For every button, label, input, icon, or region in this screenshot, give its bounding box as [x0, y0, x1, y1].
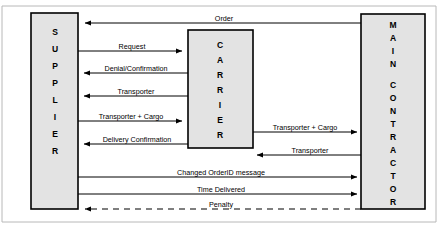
- actor-main-contractor-letter-5: C: [390, 80, 396, 90]
- message-arrow-transporter-to-carrier: Transporter: [257, 146, 361, 156]
- message-label-transporter-cargo-to-carrier: Transporter + Cargo: [99, 112, 164, 121]
- message-arrow-transporter-cargo-to-main: Transporter + Cargo: [253, 123, 357, 133]
- actor-supplier-letter-1: U: [52, 44, 58, 54]
- message-label-denial-confirmation: Denial/Confirmation: [104, 64, 167, 73]
- message-label-time-delivered: Time Delivered: [197, 185, 245, 194]
- actor-main-contractor-letter-14: R: [390, 197, 396, 207]
- actor-main-contractor-letter-3: N: [390, 59, 396, 69]
- message-arrow-time-delivered: Time Delivered: [78, 185, 357, 195]
- message-label-changed-orderid: Changed OrderID message: [177, 168, 265, 177]
- message-label-penalty: Penalty: [209, 200, 233, 209]
- actor-main-contractor-letter-11: C: [390, 158, 396, 168]
- message-arrow-transporter-to-supplier: Transporter: [84, 87, 188, 97]
- actor-main-contractor-letter-13: O: [390, 184, 397, 194]
- actor-supplier-letter-2: P: [52, 61, 58, 71]
- message-label-delivery-confirmation: Delivery Confirmation: [103, 135, 172, 144]
- actor-carrier-letter-4: I: [219, 100, 221, 110]
- message-arrow-changed-orderid: Changed OrderID message: [78, 168, 357, 178]
- message-arrow-penalty: Penalty: [85, 200, 361, 210]
- actor-carrier-letter-5: E: [217, 115, 223, 125]
- actor-carrier-letter-6: R: [217, 130, 223, 140]
- actor-carrier-letter-1: A: [217, 55, 223, 65]
- message-arrow-request: Request: [78, 42, 182, 52]
- actor-supplier-letter-5: I: [54, 112, 56, 122]
- actor-main-contractor-letter-0: M: [389, 20, 396, 30]
- actor-main-contractor-letter-9: R: [390, 132, 396, 142]
- message-arrow-transporter-cargo-to-carrier: Transporter + Cargo: [78, 112, 182, 122]
- flow-diagram: Order Request Denial/Confirmation Transp…: [0, 0, 438, 231]
- actor-carrier-letter-0: C: [217, 40, 223, 50]
- message-label-request: Request: [119, 42, 146, 51]
- actor-carrier-letter-2: R: [217, 70, 223, 80]
- message-label-transporter-cargo-to-main: Transporter + Cargo: [273, 123, 338, 132]
- actor-supplier[interactable]: S U P P L I E R: [31, 13, 78, 209]
- message-label-order: Order: [215, 14, 234, 23]
- message-label-transporter-to-carrier: Transporter: [292, 146, 329, 155]
- actor-supplier-letter-0: S: [52, 27, 58, 37]
- actor-carrier[interactable]: C A R R I E R: [188, 30, 253, 148]
- message-label-transporter-to-supplier: Transporter: [118, 87, 155, 96]
- actor-main-contractor[interactable]: M A I N C O N T R A C T O R: [361, 14, 425, 209]
- message-arrow-delivery-confirmation: Delivery Confirmation: [84, 135, 188, 145]
- actor-supplier-letter-6: E: [52, 129, 58, 139]
- actor-main-contractor-letter-7: N: [390, 106, 396, 116]
- diagram-canvas: Order Request Denial/Confirmation Transp…: [0, 0, 438, 231]
- message-arrow-denial-confirmation: Denial/Confirmation: [84, 64, 188, 74]
- actor-supplier-letter-4: L: [52, 95, 57, 105]
- actor-main-contractor-letter-8: T: [390, 119, 396, 129]
- actor-main-contractor-letter-6: O: [390, 93, 397, 103]
- actor-supplier-letter-3: P: [52, 78, 58, 88]
- message-arrow-order: Order: [85, 14, 361, 24]
- actor-carrier-letter-3: R: [217, 85, 223, 95]
- actor-main-contractor-letter-1: A: [390, 33, 396, 43]
- actor-supplier-letter-7: R: [52, 146, 58, 156]
- actor-main-contractor-letter-2: I: [392, 46, 394, 56]
- actor-main-contractor-letter-12: T: [390, 171, 396, 181]
- actor-main-contractor-letter-10: A: [390, 145, 396, 155]
